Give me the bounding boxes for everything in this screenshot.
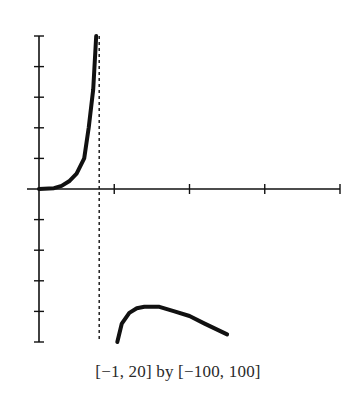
function-graph [0, 0, 356, 405]
axes [27, 36, 340, 342]
curve-branch-2 [117, 307, 227, 342]
curve-branch-1 [39, 36, 96, 189]
window-range-caption: [−1, 20] by [−100, 100] [0, 362, 356, 382]
